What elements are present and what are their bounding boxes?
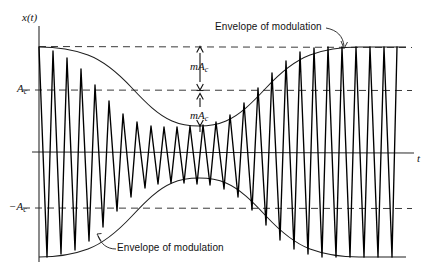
caption-leaders-group <box>97 28 348 249</box>
y-axis-label: x(t) <box>22 12 37 23</box>
mac-lower-label: mAc <box>190 110 208 123</box>
am-waveform-figure: x(t) t Ac −Ac mAc mAc Envelope of modula… <box>0 0 432 273</box>
waveform-plot-canvas <box>0 0 432 273</box>
negative-ac-tick-label-base: −A <box>9 200 23 212</box>
mac-lower-label-subscript: c <box>205 114 209 123</box>
mac-lower-label-base: mA <box>190 109 205 121</box>
negative-ac-tick-label: −Ac <box>9 201 27 214</box>
mac-upper-label-subscript: c <box>205 65 209 74</box>
t-axis-label: t <box>417 153 420 164</box>
envelope-top-caption: Envelope of modulation <box>215 22 322 32</box>
ac-tick-label-subscript: c <box>24 87 28 96</box>
mac-upper-label-base: mA <box>190 60 205 72</box>
ac-tick-label-base: A <box>17 82 24 94</box>
t-axis <box>32 152 414 153</box>
negative-ac-tick-label-subscript: c <box>23 205 27 214</box>
mac-upper-arrowhead-bottom <box>197 84 204 90</box>
ac-tick-label: Ac <box>17 83 27 96</box>
negative-carrier-amplitude-reference-line <box>23 208 412 209</box>
mac-upper-label: mAc <box>190 61 208 74</box>
envelope-top-leader-line <box>326 28 344 46</box>
envelope-bottom-caption: Envelope of modulation <box>117 243 224 253</box>
envelope-bottom-leader-arrowhead <box>97 234 102 242</box>
